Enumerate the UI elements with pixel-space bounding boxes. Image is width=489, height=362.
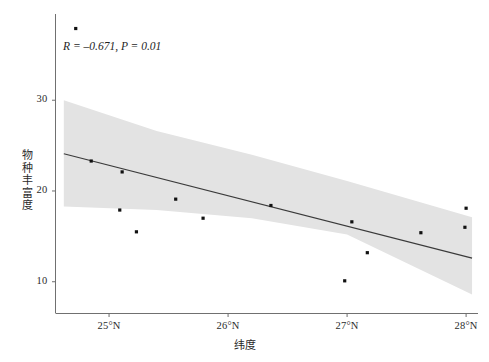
data-point [135,230,138,233]
x-tick-label: 25°N [87,320,131,331]
scatter-plot-figure: 10203025°N26°N27°N28°N R = –0.671, P = 0… [0,0,489,362]
plot-canvas [0,0,489,362]
y-axis-title: 物种丰富度 [18,150,36,213]
x-tick-label: 28°N [444,320,488,331]
data-point [350,220,353,223]
data-point [269,204,272,207]
y-tick-label: 30 [0,93,48,104]
data-point [463,226,466,229]
correlation-annotation: R = –0.671, P = 0.01 [63,40,161,52]
x-tick-label: 27°N [325,320,369,331]
confidence-band [64,100,472,294]
data-point [201,217,204,220]
data-point [90,159,93,162]
data-point [366,251,369,254]
data-point [121,170,124,173]
y-tick-label: 10 [0,275,48,286]
x-axis-title: 纬度 [0,336,489,352]
x-tick-label: 26°N [206,320,250,331]
data-point [118,208,121,211]
data-point [174,198,177,201]
data-point [419,231,422,234]
y-axis-ticks [52,100,56,282]
data-point [464,207,467,210]
data-point [343,279,346,282]
data-point [74,27,77,30]
x-axis-ticks [109,314,466,318]
